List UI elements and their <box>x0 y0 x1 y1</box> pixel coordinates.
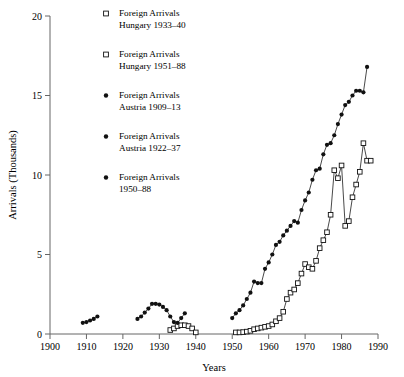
x-tick-label: 1930 <box>149 341 169 352</box>
data-point-marker <box>175 321 179 325</box>
data-point-marker <box>350 93 354 97</box>
data-point-marker <box>135 317 139 321</box>
data-point-marker <box>248 291 252 295</box>
data-point-marker <box>179 316 183 320</box>
legend-label-line1: Foreign Arrivals <box>119 49 180 59</box>
data-point-marker <box>154 302 158 306</box>
series-3 <box>135 302 187 325</box>
series-line <box>236 143 371 332</box>
data-point-marker <box>317 246 322 251</box>
data-point-marker <box>328 212 333 217</box>
data-point-marker <box>237 308 241 312</box>
data-point-marker <box>143 310 147 314</box>
legend-label-line2: Hungary 1933–40 <box>119 20 186 30</box>
data-point-marker <box>314 168 318 172</box>
data-point-marker <box>336 176 341 181</box>
legend-item-4[interactable]: Foreign Arrivals1950–88 <box>104 172 180 194</box>
data-point-marker <box>343 224 348 229</box>
x-tick-label: 1960 <box>259 341 279 352</box>
x-tick-label: 1910 <box>76 341 96 352</box>
x-tick-label: 1920 <box>113 341 133 352</box>
data-point-marker <box>329 141 333 145</box>
data-point-marker <box>281 309 286 314</box>
data-point-marker <box>161 305 165 309</box>
series-1 <box>234 141 373 335</box>
data-point-marker <box>343 103 347 107</box>
data-point-marker <box>347 100 351 104</box>
data-point-marker <box>252 279 256 283</box>
axis-lines <box>50 16 378 334</box>
data-point-marker <box>318 167 322 171</box>
data-point-marker <box>307 190 311 194</box>
data-point-marker <box>292 287 297 292</box>
chart-figure: 0510152019001910192019301940195019601970… <box>0 0 404 377</box>
x-tick-label: 1950 <box>222 341 242 352</box>
legend-item-0[interactable]: Foreign ArrivalsHungary 1933–40 <box>104 8 186 30</box>
legend-item-2[interactable]: Foreign ArrivalsAustria 1909–13 <box>104 90 181 112</box>
data-point-marker <box>165 308 169 312</box>
data-point-marker <box>84 320 88 324</box>
data-point-marker <box>347 219 352 224</box>
data-point-marker <box>263 267 267 271</box>
data-point-marker <box>296 221 300 225</box>
legend-item-3[interactable]: Foreign ArrivalsAustria 1922–37 <box>104 131 181 153</box>
series-0 <box>168 323 198 335</box>
data-point-marker <box>234 311 238 315</box>
data-point-marker <box>146 306 150 310</box>
x-tick-label: 1990 <box>368 341 388 352</box>
chart-plot-area: 0510152019001910192019301940195019601970… <box>0 0 404 377</box>
data-point-marker <box>285 229 289 233</box>
data-point-marker <box>285 297 290 302</box>
data-point-marker <box>193 330 198 335</box>
x-axis-title: Years <box>202 362 225 373</box>
y-tick-label: 15 <box>32 90 42 101</box>
data-point-marker <box>354 89 358 93</box>
data-point-marker <box>241 303 245 307</box>
data-point-marker <box>292 219 296 223</box>
data-point-marker <box>361 90 365 94</box>
data-point-marker <box>336 122 340 126</box>
data-point-marker <box>150 302 154 306</box>
data-point-marker <box>321 238 326 243</box>
data-point-marker <box>139 314 143 318</box>
data-point-marker <box>81 321 85 325</box>
data-point-marker <box>299 208 303 212</box>
data-point-marker <box>270 252 274 256</box>
data-point-marker <box>310 267 315 272</box>
data-point-marker <box>278 240 282 244</box>
data-point-marker <box>230 316 234 320</box>
data-point-marker <box>339 112 343 116</box>
data-point-marker <box>259 281 263 285</box>
legend-label-line2: Austria 1909–13 <box>119 102 181 112</box>
legend-label-line2: Austria 1922–37 <box>119 143 181 153</box>
data-point-marker <box>95 314 99 318</box>
data-point-marker <box>281 233 285 237</box>
data-point-marker <box>183 311 187 315</box>
data-point-marker <box>303 198 307 202</box>
data-point-marker <box>288 224 292 228</box>
data-point-marker <box>357 170 362 175</box>
data-point-marker <box>168 314 172 318</box>
chart-axes: 0510152019001910192019301940195019601970… <box>32 11 388 352</box>
data-point-marker <box>339 163 344 168</box>
y-tick-label: 10 <box>32 170 42 181</box>
data-point-marker <box>332 168 337 173</box>
data-point-marker <box>358 89 362 93</box>
legend-label-line1: Foreign Arrivals <box>119 131 180 141</box>
data-point-marker <box>332 133 336 137</box>
legend-label-line2: 1950–88 <box>119 184 152 194</box>
legend-item-1[interactable]: Foreign ArrivalsHungary 1951–88 <box>104 49 186 71</box>
data-point-marker <box>92 317 96 321</box>
data-point-marker <box>368 158 373 163</box>
legend-label-line2: Hungary 1951–88 <box>119 61 186 71</box>
data-point-marker <box>325 143 329 147</box>
legend-marker-filled-circle-icon <box>104 175 108 179</box>
data-point-marker <box>325 230 330 235</box>
legend-label-line1: Foreign Arrivals <box>119 90 180 100</box>
data-point-marker <box>157 302 161 306</box>
x-tick-label: 1940 <box>186 341 206 352</box>
data-point-marker <box>361 141 366 146</box>
legend-marker-open-square-icon <box>104 11 109 16</box>
y-axis-title: Arrivals (Thousands) <box>7 130 19 220</box>
chart-legend: Foreign ArrivalsHungary 1933–40Foreign A… <box>104 8 186 194</box>
